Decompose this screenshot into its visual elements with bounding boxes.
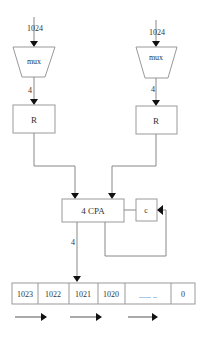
register-cell: 1023 xyxy=(17,290,33,299)
cpa-shift-diagram: 1024 mux 4 R 1024 mux 4 R xyxy=(0,0,203,341)
adder-output-arrowhead-icon xyxy=(73,276,81,282)
right-register-to-adder xyxy=(108,134,156,199)
register-cell: 1021 xyxy=(75,290,91,299)
shift-arrow-icon xyxy=(41,313,47,321)
left-mux-output-arrowhead-icon xyxy=(30,99,38,105)
right-mux-shape xyxy=(136,47,177,78)
adder-output-width-label: 4 xyxy=(71,238,75,247)
carry-register: c xyxy=(136,199,157,221)
right-register: R xyxy=(136,106,177,134)
adder-output: 4 xyxy=(71,222,81,282)
left-mux-output-width-label: 4 xyxy=(28,86,32,95)
left-mux: mux xyxy=(13,47,55,77)
left-register: R xyxy=(13,105,55,133)
right-mux: mux xyxy=(136,47,177,78)
result-register: 1023 1022 1021 1020 ...... .. 0 xyxy=(12,283,195,304)
left-route-line xyxy=(34,133,75,193)
right-register-label: R xyxy=(153,116,159,126)
right-route-line xyxy=(112,134,156,193)
right-input-arrowhead-icon xyxy=(152,41,160,47)
left-route-arrowhead-icon xyxy=(71,193,79,199)
left-mux-output: 4 xyxy=(28,77,38,105)
shift-arrow-icon xyxy=(152,313,158,321)
left-input-arrowhead-icon xyxy=(30,41,38,47)
register-cell: ...... .. xyxy=(139,291,157,300)
left-register-label: R xyxy=(31,115,37,125)
right-mux-output-arrowhead-icon xyxy=(152,100,160,106)
left-input-path: 1024 xyxy=(27,17,43,47)
shift-arrow-icon xyxy=(96,313,102,321)
right-mux-output-width-label: 4 xyxy=(151,85,155,94)
feedback-arrowhead-icon xyxy=(157,205,163,215)
carry-label: c xyxy=(144,206,148,215)
shift-arrows xyxy=(15,313,158,321)
register-cell: 1020 xyxy=(103,290,119,299)
right-input-width-label: 1024 xyxy=(149,28,165,37)
right-mux-output: 4 xyxy=(151,78,160,106)
left-input-width-label: 1024 xyxy=(27,24,43,33)
register-cell: 0 xyxy=(181,290,185,299)
register-cell: 1022 xyxy=(45,290,61,299)
adder: 4 CPA xyxy=(62,199,124,222)
left-register-to-adder xyxy=(34,133,79,199)
left-mux-label: mux xyxy=(27,57,41,66)
right-route-arrowhead-icon xyxy=(108,193,116,199)
right-mux-label: mux xyxy=(149,53,163,62)
right-input-path: 1024 xyxy=(149,20,165,47)
adder-label: 4 CPA xyxy=(81,206,105,216)
